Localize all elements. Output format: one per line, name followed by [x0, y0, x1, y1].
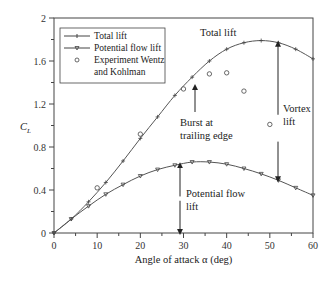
y-tick-label: 0.4	[34, 185, 47, 196]
x-tick-label: 0	[52, 240, 57, 251]
x-tick-label: 10	[92, 240, 102, 251]
y-tick-label: 2	[41, 13, 46, 24]
x-tick-label: 20	[135, 240, 145, 251]
experiment-point	[242, 89, 246, 93]
annotation-burst-1: Burst at	[180, 117, 213, 128]
legend-experiment-1: Experiment Wentz	[94, 55, 165, 65]
legend-total-lift: Total lift	[94, 31, 127, 41]
annotations: Total liftBurst attrailing edgeVortexlif…	[180, 27, 312, 232]
x-tick-label: 40	[222, 240, 232, 251]
experiment-point	[138, 132, 142, 136]
annotation-vortex-1: Vortex	[283, 103, 312, 114]
x-tick-label: 30	[179, 240, 189, 251]
x-tick-label: 50	[265, 240, 275, 251]
series-potential-flow-lift	[52, 161, 315, 235]
legend: Total liftPotential flow liftExperiment …	[60, 28, 165, 83]
lift-coefficient-chart: 010203040506000.40.81.21.62Angle of atta…	[0, 0, 334, 282]
annotation-vortex-2: lift	[283, 116, 295, 127]
annotation-burst-2: trailing edge	[180, 130, 233, 141]
y-tick-label: 1.6	[34, 56, 47, 67]
y-axis-label: CL	[20, 121, 31, 135]
annotation-potential-1: Potential flow	[186, 188, 246, 199]
experiment-point	[181, 87, 185, 91]
y-tick-label: 1.2	[34, 99, 47, 110]
experiment-point	[95, 186, 99, 190]
y-tick-label: 0	[41, 228, 46, 239]
annotation-total-lift: Total lift	[200, 27, 236, 38]
experiment-point	[224, 71, 228, 75]
legend-experiment-2: and Kohlman	[94, 67, 146, 77]
experiment-point	[268, 122, 272, 126]
annotation-potential-2: lift	[186, 201, 198, 212]
legend-potential-flow-lift: Potential flow lift	[94, 43, 161, 53]
x-tick-label: 60	[308, 240, 318, 251]
x-axis-label: Angle of attack α (deg)	[135, 254, 233, 266]
experiment-point	[207, 72, 211, 76]
y-tick-label: 0.8	[34, 142, 47, 153]
